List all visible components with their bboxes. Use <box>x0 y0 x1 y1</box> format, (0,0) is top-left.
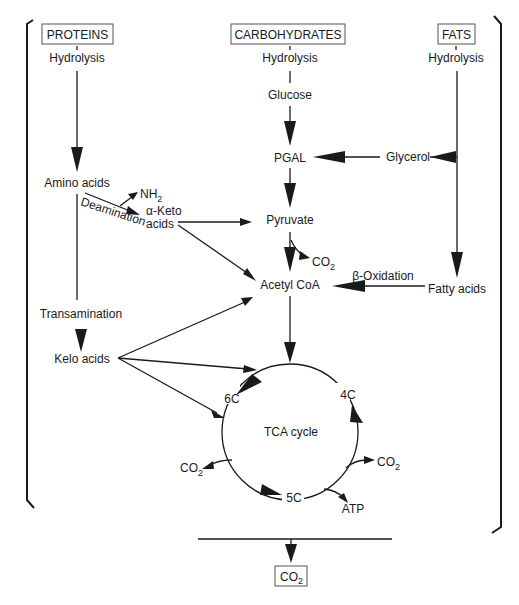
arrowhead-icon <box>284 247 296 272</box>
atp-label: ATP <box>342 502 364 516</box>
co2-right-label: CO2 <box>377 455 400 472</box>
arrowhead-icon <box>243 365 257 373</box>
co2-final-box: CO2 <box>275 566 307 586</box>
arrowhead-icon <box>299 251 310 260</box>
beta-oxidation-label: β-Oxidation <box>352 269 414 283</box>
transamination-label: Transamination <box>40 307 122 321</box>
fats-box: FATS <box>438 24 475 44</box>
glycerol-label: Glycerol <box>386 150 430 164</box>
arrowhead-icon <box>71 147 83 172</box>
arrowhead-icon <box>284 121 296 146</box>
fatty-acids-label: Fatty acids <box>428 282 486 296</box>
arrowhead-icon <box>364 456 375 464</box>
arrowhead-icon <box>350 405 363 423</box>
arrowhead-icon <box>202 461 214 469</box>
left-bracket <box>27 20 34 508</box>
arrowhead-icon <box>285 544 297 563</box>
5c-label: 5C <box>286 491 302 505</box>
arrowhead-icon <box>260 484 282 495</box>
6c-label: 6C <box>224 392 240 406</box>
carbohydrates-box: CARBOHYDRATES <box>231 24 345 44</box>
alpha-keto-acids-label: acids <box>146 217 174 231</box>
tca-cycle-label: TCA cycle <box>264 425 318 439</box>
fats-label: FATS <box>442 28 471 42</box>
co2-pyruvate-label: CO2 <box>312 255 335 272</box>
arrowhead-icon <box>211 410 225 418</box>
proteins-box: PROTEINS <box>42 24 113 44</box>
kelo-acids-label: Kelo acids <box>54 352 109 366</box>
arrowhead-icon <box>284 183 296 208</box>
right-bracket <box>492 16 501 533</box>
glucose-label: Glucose <box>268 88 312 102</box>
arrowhead-icon <box>75 329 87 352</box>
deamination-label: Deamination <box>79 195 147 229</box>
pgal-label: PGAL <box>274 151 306 165</box>
arrowhead-icon <box>240 218 252 226</box>
alpha-keto-label: α-Keto <box>146 204 182 218</box>
arrowhead-icon <box>451 252 463 278</box>
arrowhead-icon <box>313 151 345 163</box>
co2-left-label: CO2 <box>180 461 203 478</box>
4c-label: 4C <box>340 388 356 402</box>
proteins-label: PROTEINS <box>47 28 108 42</box>
arrowhead-icon <box>243 268 256 281</box>
nh2-label: NH2 <box>140 187 162 204</box>
metabolism-diagram: PROTEINS CARBOHYDRATES FATS Hydrolysis H… <box>0 0 519 605</box>
arrowhead-icon <box>284 342 296 363</box>
carbohydrates-label: CARBOHYDRATES <box>234 28 341 42</box>
hydrolysis-proteins-label: Hydrolysis <box>49 51 104 65</box>
arrowhead-icon <box>430 151 456 163</box>
hydrolysis-fats-label: Hydrolysis <box>428 51 483 65</box>
hydrolysis-carbs-label: Hydrolysis <box>262 51 317 65</box>
amino-acids-label: Amino acids <box>44 176 109 190</box>
arrowhead-icon <box>241 297 253 306</box>
pyruvate-label: Pyruvate <box>266 213 314 227</box>
acetyl-coa-label: Acetyl CoA <box>260 278 319 292</box>
